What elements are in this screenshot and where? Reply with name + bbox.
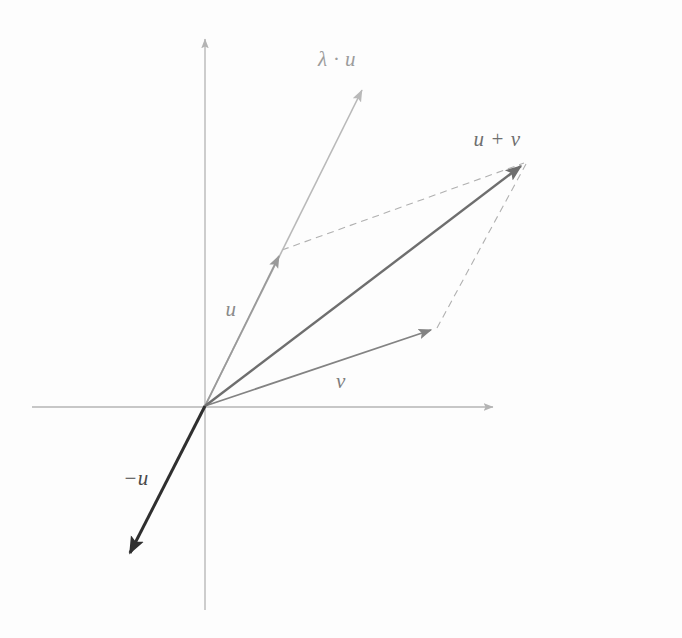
label-lambda-u: λ · u <box>318 47 356 72</box>
vector-u <box>205 256 279 406</box>
diagram-svg <box>0 0 682 638</box>
label-v: v <box>336 369 346 394</box>
construction-lines-group <box>282 163 526 328</box>
vector-v <box>205 330 431 406</box>
label-minus-u: −u <box>123 466 149 491</box>
vectors-group <box>130 90 521 553</box>
label-u: u <box>226 297 237 322</box>
label-u-plus-v: u + v <box>474 127 521 152</box>
dashed-line-u-to-sum <box>282 163 524 250</box>
vector-u-plus-v <box>205 166 521 406</box>
vector-diagram-canvas: λ · u u + v u v −u <box>0 0 682 638</box>
dashed-line-v-to-sum <box>437 164 526 328</box>
axes-group <box>32 39 493 610</box>
